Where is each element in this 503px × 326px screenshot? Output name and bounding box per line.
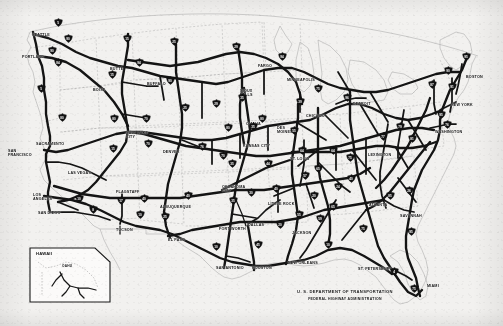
hawaii-inset-graphic: [30, 248, 110, 302]
interstate-highway-map: .coast{fill:#fcfbfa;stroke:#3b3b3b;strok…: [0, 0, 503, 326]
map-graphics: .coast{fill:#fcfbfa;stroke:#3b3b3b;strok…: [0, 0, 503, 326]
